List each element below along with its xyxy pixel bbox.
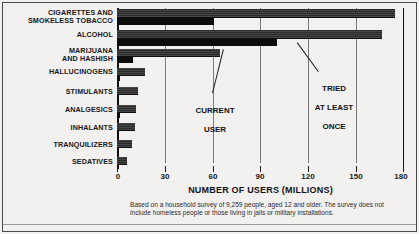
tick-label-30: 30: [161, 172, 170, 181]
bar-tried-cigarettes: [117, 9, 395, 18]
bar-tried-hallucinogens: [117, 68, 145, 76]
footnote-divider: [3, 224, 416, 225]
bar-current-inhalants: [117, 131, 119, 136]
annotation-current-user: CURRENT USER: [186, 96, 244, 134]
annotation-tried-line3: ONCE: [322, 122, 345, 131]
annotation-current-user-line1: CURRENT: [195, 106, 234, 115]
bar-current-hallucinogens: [117, 76, 120, 81]
annotation-tried-at-least-once: TRIED AT LEAST ONCE: [303, 74, 365, 131]
bar-current-tranquilizers: [117, 148, 119, 153]
bar-tried-stimulants: [117, 87, 138, 95]
x-axis-title: NUMBER OF USERS (MILLIONS): [117, 185, 404, 195]
tick-label-180: 180: [394, 172, 407, 181]
chart-figure: CIGARETTES AND SMOKELESS TOBACCO ALCOHOL…: [0, 0, 419, 234]
tick-label-120: 120: [301, 172, 314, 181]
bar-current-marijuana: [117, 57, 133, 63]
annotation-tried-line2: AT LEAST: [315, 103, 354, 112]
bar-tried-tranquilizers: [117, 140, 132, 148]
annotation-tried-line1: TRIED: [322, 84, 346, 93]
annotation-current-user-line2: USER: [204, 125, 226, 134]
bar-current-stimulants: [117, 95, 119, 100]
tick-label-90: 90: [256, 172, 265, 181]
bar-tried-alcohol: [117, 30, 382, 39]
plot-right-border: [403, 8, 404, 166]
bar-current-cigarettes: [117, 18, 214, 25]
chart-footnote: Based on a household survey of 9,259 peo…: [130, 201, 406, 218]
tick-label-60: 60: [209, 172, 218, 181]
bar-tried-marijuana: [117, 49, 220, 57]
bar-current-analgesics: [117, 113, 120, 118]
tick-label-0: 0: [116, 172, 120, 181]
tick-label-150: 150: [349, 172, 362, 181]
bar-tried-inhalants: [117, 123, 135, 131]
bar-tried-sedatives: [117, 157, 127, 165]
bar-tried-analgesics: [117, 105, 136, 113]
plot-area: CURRENT USER TRIED AT LEAST ONCE 0 30 60…: [0, 0, 419, 234]
bar-current-alcohol: [117, 39, 277, 46]
